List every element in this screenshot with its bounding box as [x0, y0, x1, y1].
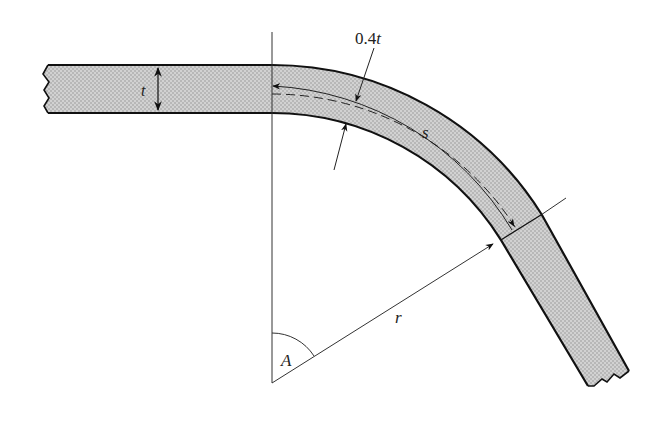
offset-label-number: 0.4 — [355, 29, 377, 48]
arc-length-label: s — [422, 123, 429, 142]
radius-label: r — [395, 308, 402, 327]
radius-line — [272, 244, 493, 383]
inner-surface — [48, 113, 588, 386]
angle-arc — [272, 333, 314, 356]
sheet-strip — [43, 65, 629, 386]
offset-leader-bottom — [334, 124, 346, 170]
offset-label-var: t — [376, 29, 382, 48]
offset-label: 0.4t — [355, 29, 382, 48]
bend-diagram: t 0.4t s r A — [0, 0, 656, 425]
angle-label: A — [280, 351, 292, 370]
thickness-label: t — [141, 82, 146, 99]
radius-extension-line — [542, 198, 566, 215]
